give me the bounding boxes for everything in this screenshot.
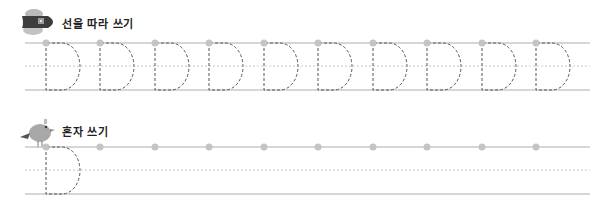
trace-guide-lines (0, 0, 610, 100)
trace-section: 선을 따라 쓰기 (0, 0, 610, 100)
trace-letters (46, 43, 570, 90)
free-section: 혼자 쓰기 (0, 100, 610, 205)
free-guide-lines (0, 100, 610, 205)
